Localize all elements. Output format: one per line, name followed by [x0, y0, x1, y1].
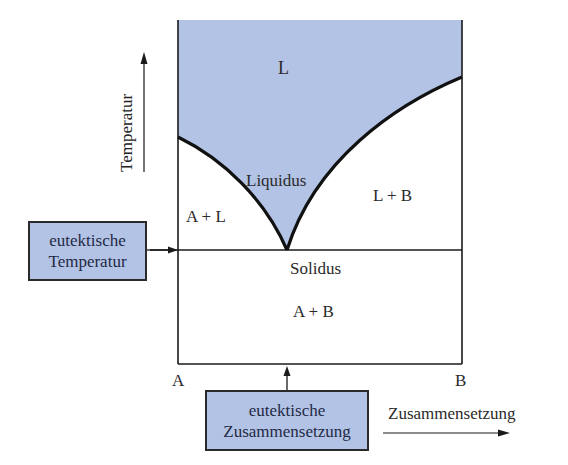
liquidus-label: Liquidus [246, 171, 306, 191]
eutectic-composition-line2: Zusammensetzung [223, 421, 350, 442]
arrowhead-eutectic-temperature [168, 247, 178, 254]
axis-label-b: B [455, 371, 466, 391]
solidus-label: Solidus [290, 259, 341, 279]
x-axis-label: Zusammensetzung [388, 404, 515, 424]
region-label-a-plus-liquid: A + L [186, 207, 226, 227]
axis-label-a: A [172, 371, 184, 391]
temperature-axis-arrowhead [141, 52, 148, 64]
eutectic-temperature-line1: eutektische [49, 230, 125, 251]
eutectic-temperature-callout: eutektische Temperatur [28, 221, 147, 281]
arrowhead-eutectic-composition [284, 366, 291, 376]
region-label-a-plus-b: A + B [293, 302, 334, 322]
region-label-liquid: L [278, 58, 289, 79]
eutectic-temperature-line2: Temperatur [48, 251, 126, 272]
composition-axis-arrowhead [498, 430, 510, 437]
y-axis-label: Temperatur [117, 94, 137, 172]
eutectic-composition-callout: eutektische Zusammensetzung [205, 390, 369, 451]
region-label-liquid-plus-b: L + B [373, 186, 412, 206]
eutectic-composition-line1: eutektische [249, 400, 325, 421]
